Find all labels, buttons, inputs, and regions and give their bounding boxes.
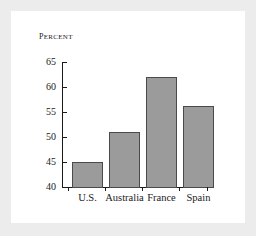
- y-tick-55: [62, 112, 67, 113]
- bar-france: [146, 77, 177, 188]
- chart-panel: Percent 65 60 55 50 45 40: [11, 11, 245, 223]
- y-tick-40: [62, 187, 67, 188]
- y-tick-60: [62, 87, 67, 88]
- y-axis-title: Percent: [39, 29, 73, 41]
- x-tick-4: [207, 187, 208, 191]
- bar-spain: [183, 106, 214, 188]
- x-tick-0: [68, 187, 69, 191]
- x-label-france: France: [142, 192, 181, 204]
- x-tick-2: [142, 187, 143, 191]
- y-tick-45: [62, 162, 67, 163]
- x-label-australia: Australia: [102, 192, 147, 204]
- y-tick-50: [62, 137, 67, 138]
- x-tick-3: [179, 187, 180, 191]
- y-tick-label-50: 50: [46, 132, 56, 142]
- figure-root: Percent 65 60 55 50 45 40: [0, 0, 256, 236]
- x-tick-1: [105, 187, 106, 191]
- y-tick-label-65: 65: [46, 57, 56, 67]
- x-label-spain: Spain: [180, 192, 217, 204]
- y-tick-label-55: 55: [46, 107, 56, 117]
- plot-area: Percent 65 60 55 50 45 40: [11, 11, 245, 223]
- y-tick-label-45: 45: [46, 157, 56, 167]
- y-axis-line: [62, 62, 63, 187]
- y-tick-label-60: 60: [46, 82, 56, 92]
- y-tick-label-40: 40: [46, 182, 56, 192]
- y-tick-65: [62, 62, 67, 63]
- bar-australia: [109, 132, 140, 188]
- bar-us: [72, 162, 103, 188]
